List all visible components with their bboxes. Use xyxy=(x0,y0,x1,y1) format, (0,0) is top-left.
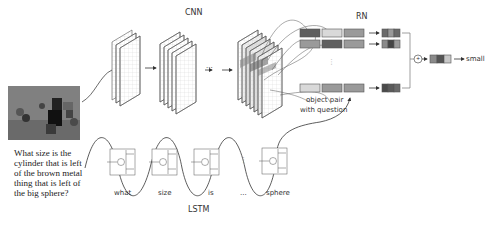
g-output-2 xyxy=(382,40,400,48)
cnn-stack-1 xyxy=(112,30,140,106)
lstm-cell-last xyxy=(259,148,287,174)
object-pair-label: object pair xyxy=(306,96,343,104)
image-to-cnn-connector xyxy=(82,70,112,102)
answer-label: small xyxy=(466,55,485,63)
lstm-label: LSTM xyxy=(188,205,209,214)
rn-label: RN xyxy=(356,12,368,21)
lstm-word-4: ... xyxy=(240,189,247,197)
lstm-word-1: what xyxy=(114,189,131,197)
lstm-word-2: size xyxy=(158,189,172,197)
f-output xyxy=(430,55,451,63)
rn-pair-row-1 xyxy=(300,29,364,37)
cnn-label: CNN xyxy=(185,8,203,17)
rn-pair-row-2 xyxy=(300,40,364,48)
lstm-ellipsis: ⋮ xyxy=(240,156,247,164)
with-question-label: with question xyxy=(300,106,347,114)
g-output-n xyxy=(382,84,400,92)
rn-ellipsis: ⋮ xyxy=(328,58,335,66)
lstm-word-3: is xyxy=(208,189,214,197)
lstm-cell-3 xyxy=(191,149,219,175)
cnn-ellipsis: ··· xyxy=(206,64,213,72)
lstm-cell-1 xyxy=(107,149,135,175)
sum-bracket xyxy=(402,33,414,88)
sum-symbol: + xyxy=(416,55,420,61)
g-output-1 xyxy=(382,29,400,37)
cnn-stack-final xyxy=(238,30,282,118)
rn-pair-row-n xyxy=(300,84,364,92)
lstm-word-5: sphere xyxy=(266,189,290,197)
cnn-stack-2 xyxy=(160,32,196,114)
lstm-cell-2 xyxy=(149,149,177,175)
